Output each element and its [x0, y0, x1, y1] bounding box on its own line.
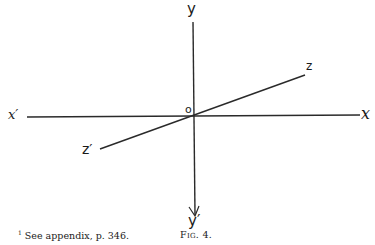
footnote-text: See appendix, p. 346. [25, 230, 129, 241]
axis-label-x-prime: x′ [8, 108, 18, 121]
footnote: 1See appendix, p. 346. [18, 229, 129, 241]
z-axis-line [100, 75, 305, 149]
axes-drawing [0, 0, 375, 245]
footnote-marker: 1 [18, 229, 22, 236]
axis-label-z: z [306, 60, 312, 72]
coordinate-axes-figure: y y′ x x′ z z′ o 1See appendix, p. 346. … [0, 0, 375, 245]
origin-label: o [185, 104, 192, 115]
axis-label-x: x [361, 106, 370, 122]
axis-label-z-prime: z′ [82, 142, 93, 156]
axis-label-y: y [187, 2, 196, 17]
axis-label-y-prime: y′ [188, 214, 200, 229]
y-axis-line [193, 22, 195, 215]
figure-caption: Fig. 4. [180, 229, 212, 240]
